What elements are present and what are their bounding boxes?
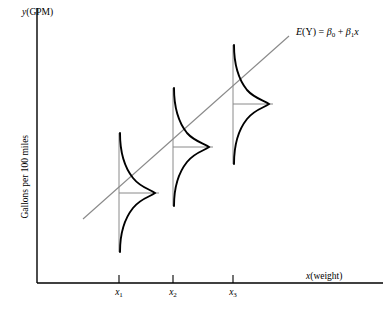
- y-axis-unit-label: (GPM): [26, 7, 53, 17]
- x-axis-tick-label-2: x2: [169, 288, 177, 299]
- regression-line: [83, 36, 289, 219]
- equation-response-paren: (Y): [302, 26, 316, 37]
- x-axis-title: x(weight): [306, 272, 342, 282]
- y-axis-title: y(GPM): [22, 8, 53, 18]
- x-axis-unit-label: (weight): [310, 271, 342, 281]
- distribution-group-3: [233, 45, 273, 164]
- distribution-group-1: [119, 133, 159, 252]
- distribution-group-2: [173, 88, 213, 206]
- y-axis-description-label: Gallons per 100 miles: [21, 122, 31, 232]
- regression-normal-distributions-figure: y(GPM) Gallons per 100 miles x(weight) E…: [0, 0, 391, 310]
- x-axis-tick-label-3: x3: [229, 288, 237, 299]
- regression-equation-label: E(Y) = β0 + β1x: [296, 27, 359, 39]
- x-axis-tick-label-1: x1: [115, 288, 123, 299]
- figure-canvas: [0, 0, 391, 310]
- tick-label-subscript-1: 1: [119, 291, 123, 299]
- tick-label-subscript-2: 2: [173, 291, 177, 299]
- tick-label-subscript-3: 3: [233, 291, 237, 299]
- axes-group: [37, 8, 383, 283]
- equation-predictor-symbol: x: [354, 26, 358, 37]
- equation-plus-sign: +: [335, 26, 346, 37]
- x-axis-ticks-group: [119, 275, 233, 283]
- equation-equals-sign: =: [316, 26, 327, 37]
